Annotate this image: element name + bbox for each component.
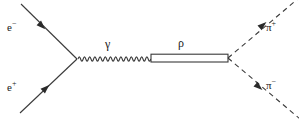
label-photon: γ [105,38,110,50]
label-pion-plus: π+ [266,22,276,33]
label-pion-minus: π− [266,80,276,91]
label-electron-charge: − [12,19,17,28]
label-rho-base: ρ [178,36,184,50]
label-positron-charge: + [12,79,17,88]
electron-incoming-line [21,4,77,59]
label-rho: ρ [178,37,184,49]
photon-wavy-line [78,57,151,61]
label-pion-plus-charge: + [272,19,277,28]
label-electron: e− [7,22,16,33]
pion-plus-outgoing-line [228,0,299,58]
feynman-diagram-canvas: e− e+ γ ρ π+ π− [0,0,299,120]
label-positron: e+ [7,82,16,93]
rho-double-line [151,54,228,62]
electron-arrow-icon [37,21,48,32]
pion-minus-outgoing-line [228,58,299,119]
label-photon-base: γ [105,37,110,51]
feynman-diagram-svg [0,0,299,120]
label-pion-minus-charge: − [272,77,277,86]
